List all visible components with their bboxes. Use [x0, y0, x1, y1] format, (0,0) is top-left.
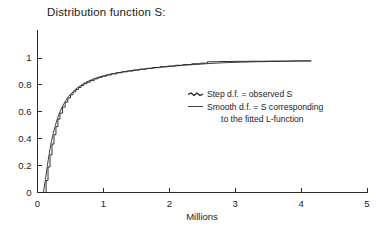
legend: Step d.f. = observed S Smooth d.f. = S c… [188, 89, 324, 124]
data-series [43, 61, 311, 193]
plot-area: 00.20.40.60.81 012345 Millions Step d.f.… [0, 0, 376, 235]
y-tick-label: 0.4 [18, 133, 31, 144]
y-axis-ticks: 00.20.40.60.81 [18, 52, 42, 198]
y-tick-label: 0.2 [18, 160, 31, 171]
x-axis-ticks: 012345 [35, 188, 370, 209]
chart-figure: Distribution function S: 00.20.40.60.81 … [0, 0, 376, 235]
x-tick-label: 1 [101, 198, 106, 209]
legend-marker-step-icon [188, 93, 203, 96]
x-axis-title: Millions [186, 211, 218, 222]
legend-label-smooth-continued: to the fitted L-function [221, 114, 304, 124]
y-tick-label: 1 [26, 52, 31, 63]
x-tick-label: 3 [233, 198, 238, 209]
legend-label-step: Step d.f. = observed S [207, 89, 293, 99]
x-tick-label: 5 [364, 198, 369, 209]
x-tick-label: 4 [298, 198, 303, 209]
y-tick-label: 0.8 [18, 79, 31, 90]
x-tick-label: 0 [35, 198, 40, 209]
legend-label-smooth: Smooth d.f. = S corresponding [207, 102, 324, 112]
y-tick-label: 0.6 [18, 106, 31, 117]
series-smooth-df [43, 61, 311, 193]
x-tick-label: 2 [167, 198, 172, 209]
y-tick-label: 0 [26, 187, 31, 198]
series-step-df [44, 61, 311, 193]
